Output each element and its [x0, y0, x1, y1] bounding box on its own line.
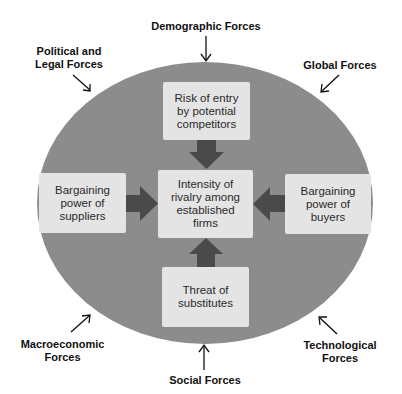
- macroeconomic-forces-label: Macroeconomic Forces: [15, 338, 110, 364]
- supplier-power-label: Bargaining power of suppliers: [55, 184, 110, 223]
- political-legal-forces-label: Political and Legal Forces: [24, 45, 114, 71]
- arrow-right-block-icon: [126, 186, 158, 221]
- global-forces-label: Global Forces: [300, 59, 380, 72]
- threat-of-substitutes-label: Threat of substitutes: [178, 284, 233, 310]
- arrow-left-block-icon: [253, 187, 285, 221]
- social-forces-label: Social Forces: [150, 374, 260, 387]
- buyer-power-box: Bargaining power of buyers: [285, 174, 371, 234]
- buyer-power-label: Bargaining power of buyers: [301, 185, 356, 224]
- threat-of-substitutes-box: Threat of substitutes: [162, 267, 249, 327]
- arrow-down-block-icon: [189, 140, 224, 169]
- demographic-forces-label: Demographic Forces: [140, 20, 272, 33]
- threat-of-new-entrants-box: Risk of entry by potential competitors: [163, 82, 250, 140]
- supplier-power-box: Bargaining power of suppliers: [39, 173, 126, 233]
- industry-rivalry-label: Intensity of rivalry among established f…: [171, 178, 240, 230]
- threat-of-new-entrants-label: Risk of entry by potential competitors: [175, 92, 239, 131]
- industry-rivalry-box: Intensity of rivalry among established f…: [158, 170, 253, 238]
- technological-forces-label: Technological Forces: [300, 339, 380, 365]
- arrow-up-block-icon: [189, 238, 223, 267]
